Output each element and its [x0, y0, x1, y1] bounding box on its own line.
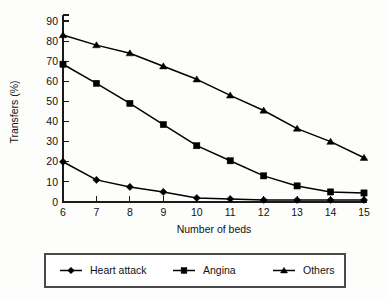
data-point-marker — [60, 61, 66, 67]
data-point-marker — [93, 176, 100, 183]
x-tick-label: 14 — [325, 206, 337, 218]
axes — [63, 15, 367, 202]
y-tick-label: 50 — [46, 95, 58, 107]
x-tick-label: 11 — [225, 206, 236, 218]
x-axis-tick-labels: 6789101112131415 — [60, 206, 370, 218]
y-axis-tick-labels: 0102030405060708090 — [46, 15, 58, 208]
y-tick-label: 10 — [46, 176, 58, 188]
data-point-marker — [260, 107, 268, 113]
legend-item-label: Others — [303, 264, 335, 276]
data-series — [59, 32, 368, 204]
data-point-marker — [294, 183, 300, 189]
y-tick-label: 30 — [46, 135, 58, 147]
line-chart: 0102030405060708090 6789101112131415 Tra… — [0, 0, 388, 298]
y-axis-ticks — [63, 21, 69, 202]
chart-figure: 0102030405060708090 6789101112131415 Tra… — [0, 0, 388, 298]
data-point-marker — [193, 194, 200, 201]
y-tick-label: 40 — [46, 115, 58, 127]
chart-legend: Heart attackAnginaOthers — [45, 254, 345, 287]
x-tick-label: 8 — [127, 206, 133, 218]
plot-area: 0102030405060708090 6789101112131415 — [46, 15, 370, 218]
data-point-marker — [59, 158, 66, 165]
series-angina — [60, 61, 367, 196]
data-point-marker — [126, 183, 133, 190]
x-tick-label: 13 — [291, 206, 303, 218]
x-tick-label: 9 — [160, 206, 166, 218]
data-point-marker — [226, 92, 234, 98]
data-point-marker — [160, 121, 166, 127]
series-others — [59, 32, 368, 161]
data-point-marker — [160, 188, 167, 195]
x-tick-label: 10 — [191, 206, 203, 218]
series-line — [63, 35, 364, 158]
data-point-marker — [127, 100, 133, 106]
series-line — [63, 64, 364, 193]
x-tick-label: 6 — [60, 206, 66, 218]
series-heart-attack — [59, 158, 367, 203]
legend-item-label: Heart attack — [90, 264, 147, 276]
data-point-marker — [361, 190, 367, 196]
y-tick-label: 90 — [46, 15, 58, 27]
data-point-marker — [261, 173, 267, 179]
x-tick-label: 7 — [94, 206, 100, 218]
y-tick-label: 0 — [52, 196, 58, 208]
y-tick-label: 80 — [46, 35, 58, 47]
series-line — [63, 162, 364, 200]
data-point-marker — [227, 158, 233, 164]
x-axis-title: Number of beds — [177, 223, 252, 235]
y-tick-label: 20 — [46, 155, 58, 167]
data-point-marker — [327, 189, 333, 195]
y-axis-title: Transfers (%) — [8, 80, 20, 143]
legend-key-marker — [181, 268, 187, 274]
x-tick-label: 12 — [258, 206, 270, 218]
data-point-marker — [360, 154, 368, 160]
x-tick-label: 15 — [358, 206, 370, 218]
data-point-marker — [59, 32, 67, 38]
data-point-marker — [93, 80, 99, 86]
data-point-marker — [194, 143, 200, 149]
data-point-marker — [293, 125, 301, 131]
legend-item-label: Angina — [203, 264, 236, 276]
y-tick-label: 60 — [46, 75, 58, 87]
y-tick-label: 70 — [46, 55, 58, 67]
